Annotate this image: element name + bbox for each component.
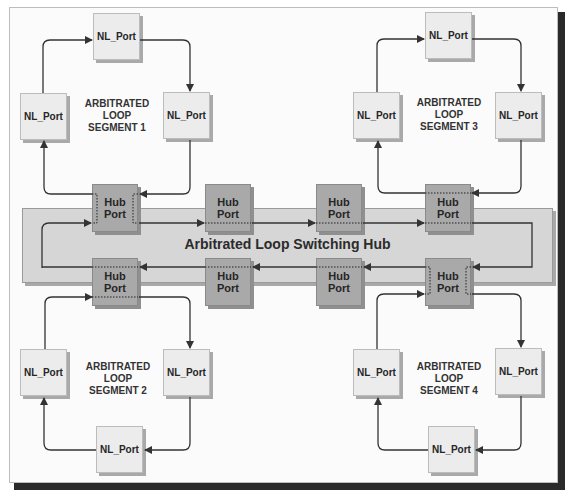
segment-1-label: ARBITRATED LOOP SEGMENT 1 (72, 98, 162, 134)
label-line: SEGMENT 3 (404, 121, 494, 133)
hub-label: Hub (437, 270, 459, 282)
hub-label: Hub (437, 196, 459, 208)
hub-label: Port (217, 282, 239, 294)
seg3-nl-port-left[interactable]: NL_Port (353, 92, 400, 139)
node-label: NL_Port (24, 111, 63, 122)
seg2-nl-port-bottom[interactable]: NL_Port (96, 426, 143, 473)
node-label: NL_Port (97, 31, 136, 42)
seg1-nl-port-right[interactable]: NL_Port (163, 92, 210, 139)
node-label: NL_Port (167, 110, 206, 121)
node-label: NL_Port (100, 444, 139, 455)
hub-port-bottom-2[interactable]: HubPort (205, 258, 251, 306)
node-label: NL_Port (357, 367, 396, 378)
frame-shadow-right (558, 12, 565, 490)
label-line: ARBITRATED (72, 98, 162, 110)
label-line: ARBITRATED (73, 361, 163, 373)
hub-label: Port (217, 208, 239, 220)
seg2-nl-port-right[interactable]: NL_Port (163, 349, 210, 396)
seg1-nl-port-top[interactable]: NL_Port (93, 13, 140, 60)
seg2-nl-port-left[interactable]: NL_Port (20, 349, 67, 396)
label-line: LOOP (72, 110, 162, 122)
hub-title: Arbitrated Loop Switching Hub (22, 236, 553, 252)
seg1-nl-port-left[interactable]: NL_Port (20, 93, 67, 140)
seg4-nl-port-left[interactable]: NL_Port (353, 349, 400, 396)
hub-port-bottom-4[interactable]: HubPort (425, 258, 471, 306)
node-label: NL_Port (429, 30, 468, 41)
label-line: SEGMENT 4 (404, 385, 494, 397)
node-label: NL_Port (432, 444, 471, 455)
hub-port-bottom-3[interactable]: HubPort (316, 258, 362, 306)
label-line: ARBITRATED (404, 97, 494, 109)
hub-port-bottom-1[interactable]: HubPort (92, 258, 138, 306)
hub-port-top-1[interactable]: HubPort (92, 184, 138, 232)
seg4-nl-port-bottom[interactable]: NL_Port (428, 426, 475, 473)
segment-3-label: ARBITRATED LOOP SEGMENT 3 (404, 97, 494, 133)
hub-label: Hub (217, 196, 239, 208)
seg3-nl-port-right[interactable]: NL_Port (495, 92, 542, 139)
hub-label: Port (328, 282, 350, 294)
label-line: LOOP (404, 373, 494, 385)
hub-label: Port (104, 282, 126, 294)
hub-label: Port (437, 208, 459, 220)
node-label: NL_Port (24, 367, 63, 378)
node-label: NL_Port (499, 110, 538, 121)
node-label: NL_Port (357, 110, 396, 121)
hub-label: Hub (104, 196, 126, 208)
hub-label: Port (437, 282, 459, 294)
node-label: NL_Port (499, 366, 538, 377)
label-line: SEGMENT 2 (73, 385, 163, 397)
hub-label: Port (104, 208, 126, 220)
node-label: NL_Port (167, 367, 206, 378)
label-line: LOOP (404, 109, 494, 121)
seg4-nl-port-right[interactable]: NL_Port (495, 348, 542, 395)
label-line: LOOP (73, 373, 163, 385)
segment-2-label: ARBITRATED LOOP SEGMENT 2 (73, 361, 163, 397)
label-line: ARBITRATED (404, 361, 494, 373)
hub-port-top-3[interactable]: HubPort (316, 184, 362, 232)
hub-label: Hub (217, 270, 239, 282)
hub-port-top-4[interactable]: HubPort (425, 184, 471, 232)
hub-label: Hub (328, 270, 350, 282)
hub-label: Hub (328, 196, 350, 208)
segment-4-label: ARBITRATED LOOP SEGMENT 4 (404, 361, 494, 397)
frame-shadow-bottom (14, 483, 565, 490)
hub-label: Hub (104, 270, 126, 282)
seg3-nl-port-top[interactable]: NL_Port (425, 12, 472, 59)
hub-port-top-2[interactable]: HubPort (205, 184, 251, 232)
label-line: SEGMENT 1 (72, 122, 162, 134)
hub-label: Port (328, 208, 350, 220)
